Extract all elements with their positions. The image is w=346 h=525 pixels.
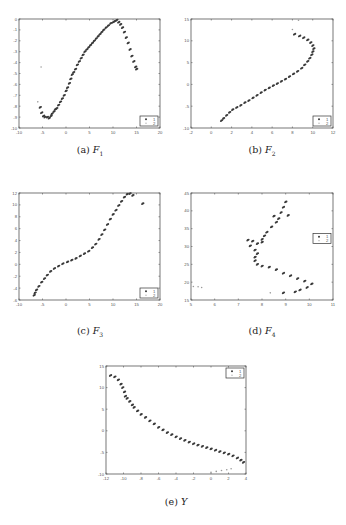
caption-y: (e) Y — [136, 496, 216, 509]
y-tick-label: 10 — [99, 385, 104, 390]
x-tick-label: 2 — [227, 476, 230, 481]
series-1-points — [109, 374, 245, 464]
x-tick-label: -2 — [192, 476, 196, 481]
y-tick-label: -5 — [100, 450, 104, 455]
x-tick-label: -4 — [174, 476, 178, 481]
y-tick-label: 0 — [102, 428, 105, 433]
y-tick-label: 15 — [99, 364, 104, 369]
x-tick-label: -6 — [157, 476, 161, 481]
subplot-y: -12-10-8-6-4-2024-10-505101512 (e) Y — [0, 0, 346, 525]
series-2-points — [210, 468, 232, 473]
scatter-plot-y: -12-10-8-6-4-2024-10-505101512 — [0, 0, 346, 490]
x-tick-label: 4 — [245, 476, 248, 481]
y-tick-label: 5 — [102, 407, 105, 412]
x-tick-label: -10 — [120, 476, 127, 481]
x-tick-label: 0 — [210, 476, 213, 481]
legend: 12 — [226, 368, 244, 378]
x-tick-label: -8 — [139, 476, 143, 481]
plot-frame — [106, 366, 246, 474]
y-tick-label: -10 — [98, 472, 105, 477]
